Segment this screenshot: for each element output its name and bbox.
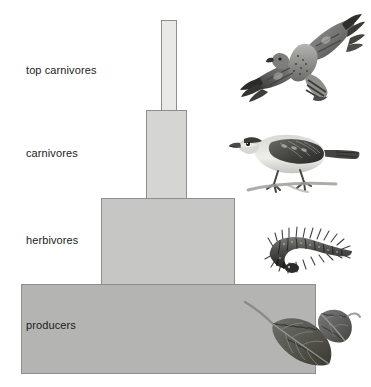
pyramid-block-carnivores <box>146 110 187 199</box>
label-herbivores: herbivores <box>26 234 78 246</box>
songbird-icon <box>228 114 364 196</box>
label-producers: producers <box>26 319 76 331</box>
pyramid-block-top-carnivores <box>161 20 177 111</box>
hawk-icon <box>238 12 366 112</box>
leaves-icon <box>243 292 361 372</box>
label-carnivores: carnivores <box>26 147 78 159</box>
caterpillar-icon <box>258 222 356 276</box>
pyramid-block-herbivores <box>101 198 235 285</box>
label-top-carnivores: top carnivores <box>26 64 97 76</box>
ecological-pyramid-diagram: top carnivores carnivores herbivores pro… <box>0 0 371 387</box>
